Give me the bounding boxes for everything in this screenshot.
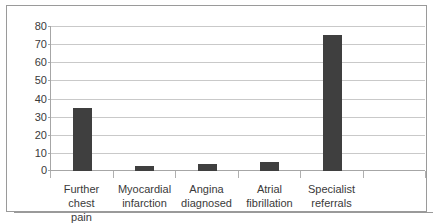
- y-tick-label: 80: [11, 21, 47, 32]
- plot-area: [50, 26, 425, 171]
- y-tick-mark: [48, 26, 51, 27]
- y-tick-mark: [48, 62, 51, 63]
- category-divider: [50, 171, 51, 178]
- y-tick-mark: [48, 153, 51, 154]
- category-divider: [425, 171, 426, 178]
- gridline: [51, 44, 425, 45]
- y-axis: 01020304050607080: [7, 26, 47, 171]
- gridline: [51, 26, 425, 27]
- y-tick-label: 70: [11, 39, 47, 50]
- gridline: [51, 62, 425, 63]
- y-tick-label: 10: [11, 148, 47, 159]
- y-tick-label: 30: [11, 112, 47, 123]
- category-divider: [300, 171, 301, 178]
- x-axis-labels: Further chestpainMyocardialinfarctionAng…: [50, 182, 425, 216]
- x-tick-label: Myocardialinfarction: [113, 182, 176, 210]
- y-tick-mark: [48, 44, 51, 45]
- x-tick-label: Atrialfibrillation: [238, 182, 301, 210]
- category-divider: [113, 171, 114, 178]
- gridline: [51, 135, 425, 136]
- gridline: [51, 80, 425, 81]
- bar: [73, 108, 92, 171]
- y-tick-label: 20: [11, 130, 47, 141]
- y-tick-label: 50: [11, 75, 47, 86]
- bar-chart-figure: 01020304050607080 Further chestpainMyoca…: [0, 0, 435, 221]
- category-axis: [50, 171, 425, 179]
- bar: [260, 162, 279, 171]
- bar: [323, 35, 342, 171]
- x-tick-label-line2: diagnosed: [175, 196, 238, 210]
- x-tick-label-line1: Myocardial: [113, 182, 176, 196]
- x-tick-label-line2: fibrillation: [238, 196, 301, 210]
- x-tick-label: Further chestpain: [50, 182, 113, 221]
- chart-frame: 01020304050607080 Further chestpainMyoca…: [6, 5, 427, 212]
- gridline: [51, 153, 425, 154]
- category-divider: [238, 171, 239, 178]
- y-tick-mark: [48, 80, 51, 81]
- category-divider: [175, 171, 176, 178]
- y-tick-mark: [48, 117, 51, 118]
- category-divider: [363, 171, 364, 178]
- y-tick-label: 40: [11, 94, 47, 105]
- bar: [198, 164, 217, 171]
- x-tick-label-line2: referrals: [300, 196, 363, 210]
- gridline: [51, 99, 425, 100]
- x-tick-label-line1: Further chest: [50, 182, 113, 210]
- x-tick-label-line2: infarction: [113, 196, 176, 210]
- x-tick-label-line1: Angina: [175, 182, 238, 196]
- x-tick-label: Anginadiagnosed: [175, 182, 238, 210]
- label-baseline-rule: [14, 212, 433, 213]
- x-tick-label-line1: Atrial: [238, 182, 301, 196]
- y-tick-mark: [48, 135, 51, 136]
- y-tick-mark: [48, 99, 51, 100]
- y-tick-label: 0: [11, 165, 47, 176]
- x-tick-label-line1: Specialist: [300, 182, 363, 196]
- gridline: [51, 117, 425, 118]
- y-tick-label: 60: [11, 57, 47, 68]
- x-tick-label: Specialistreferrals: [300, 182, 363, 210]
